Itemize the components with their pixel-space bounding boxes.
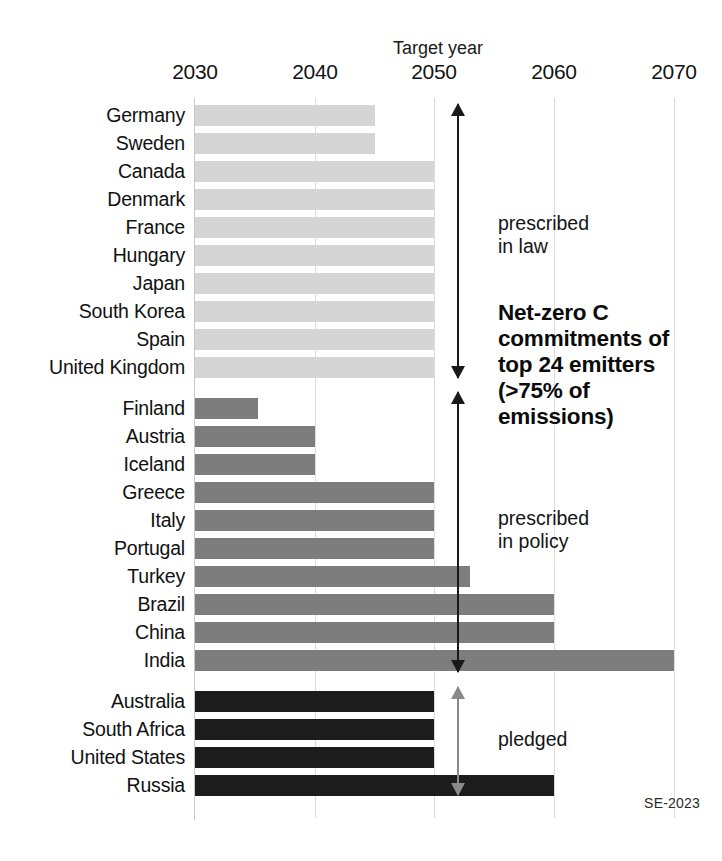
- bar-russia[interactable]: [195, 775, 554, 796]
- category-label: South Korea: [0, 300, 185, 322]
- bracket-stem: [457, 104, 459, 378]
- category-label: Greece: [0, 481, 185, 503]
- category-label: Italy: [0, 509, 185, 531]
- group-label-line2: in policy: [498, 530, 589, 553]
- category-label: Finland: [0, 397, 185, 419]
- category-label: Canada: [0, 160, 185, 182]
- bar-row[interactable]: Russia: [0, 774, 722, 802]
- bar-china[interactable]: [195, 622, 554, 643]
- bar-south-korea[interactable]: [195, 301, 434, 322]
- group-label-line1: prescribed: [498, 212, 589, 235]
- category-label: Sweden: [0, 132, 185, 154]
- bar-row[interactable]: China: [0, 621, 722, 649]
- group-label-policy: prescribedin policy: [498, 507, 589, 553]
- group-label-line1: prescribed: [498, 507, 589, 530]
- bar-turkey[interactable]: [195, 566, 470, 587]
- bracket-stem: [457, 392, 459, 672]
- category-label: Russia: [0, 774, 185, 796]
- arrow-down-icon: [451, 366, 465, 379]
- x-tick-label-2030: 2030: [155, 60, 235, 84]
- category-label: Brazil: [0, 593, 185, 615]
- bar-row[interactable]: Denmark: [0, 188, 722, 216]
- arrow-up-icon: [451, 103, 465, 116]
- category-label: Spain: [0, 328, 185, 350]
- bar-united-kingdom[interactable]: [195, 357, 434, 378]
- bar-row[interactable]: Germany: [0, 104, 722, 132]
- category-label: Hungary: [0, 244, 185, 266]
- bar-row[interactable]: United States: [0, 746, 722, 774]
- category-label: United Kingdom: [0, 356, 185, 378]
- bar-australia[interactable]: [195, 691, 434, 712]
- bar-united-states[interactable]: [195, 747, 434, 768]
- category-label: Iceland: [0, 453, 185, 475]
- bar-brazil[interactable]: [195, 594, 554, 615]
- bar-row[interactable]: Italy: [0, 509, 722, 537]
- credit-label: SE-2023: [644, 795, 700, 811]
- group-bracket-pledge: [449, 687, 467, 795]
- group-bracket-law: [449, 104, 467, 378]
- bar-germany[interactable]: [195, 105, 375, 126]
- bar-row[interactable]: Portugal: [0, 537, 722, 565]
- bar-denmark[interactable]: [195, 189, 434, 210]
- bar-row[interactable]: India: [0, 649, 722, 677]
- category-label: France: [0, 216, 185, 238]
- group-label-law: prescribedin law: [498, 212, 589, 258]
- category-label: South Africa: [0, 718, 185, 740]
- plot-area: GermanySwedenCanadaDenmarkFranceHungaryJ…: [0, 0, 722, 861]
- group-label-line2: in law: [498, 235, 589, 258]
- bar-hungary[interactable]: [195, 245, 434, 266]
- arrow-down-icon: [451, 783, 465, 796]
- bar-row[interactable]: Hungary: [0, 244, 722, 272]
- category-label: Turkey: [0, 565, 185, 587]
- group-label-line1: pledged: [498, 728, 567, 751]
- net-zero-commitments-chart: Target year GermanySwedenCanadaDenmarkFr…: [0, 0, 722, 861]
- category-label: China: [0, 621, 185, 643]
- chart-headline: Net-zero C commitments of top 24 emitter…: [498, 300, 698, 430]
- bar-austria[interactable]: [195, 426, 315, 447]
- bar-iceland[interactable]: [195, 454, 315, 475]
- bar-france[interactable]: [195, 217, 434, 238]
- x-tick-label-2040: 2040: [275, 60, 355, 84]
- bar-canada[interactable]: [195, 161, 434, 182]
- group-bracket-policy: [449, 392, 467, 672]
- bar-row[interactable]: Japan: [0, 272, 722, 300]
- bar-finland[interactable]: [195, 398, 258, 419]
- x-tick-label-2070: 2070: [634, 60, 714, 84]
- bar-row[interactable]: Sweden: [0, 132, 722, 160]
- bar-row[interactable]: France: [0, 216, 722, 244]
- bar-row[interactable]: Turkey: [0, 565, 722, 593]
- bar-portugal[interactable]: [195, 538, 434, 559]
- category-label: United States: [0, 746, 185, 768]
- bar-greece[interactable]: [195, 482, 434, 503]
- bar-row[interactable]: South Africa: [0, 718, 722, 746]
- category-label: Australia: [0, 690, 185, 712]
- arrow-down-icon: [451, 660, 465, 673]
- category-label: Portugal: [0, 537, 185, 559]
- bar-japan[interactable]: [195, 273, 434, 294]
- category-label: India: [0, 649, 185, 671]
- arrow-up-icon: [451, 391, 465, 404]
- bar-sweden[interactable]: [195, 133, 375, 154]
- bar-south-africa[interactable]: [195, 719, 434, 740]
- bar-row[interactable]: Greece: [0, 481, 722, 509]
- x-tick-label-2050: 2050: [394, 60, 474, 84]
- bar-italy[interactable]: [195, 510, 434, 531]
- category-label: Austria: [0, 425, 185, 447]
- bar-india[interactable]: [195, 650, 674, 671]
- category-label: Denmark: [0, 188, 185, 210]
- bar-row[interactable]: Iceland: [0, 453, 722, 481]
- group-label-pledge: pledged: [498, 728, 567, 751]
- bar-spain[interactable]: [195, 329, 434, 350]
- bar-row[interactable]: Canada: [0, 160, 722, 188]
- bar-row[interactable]: Australia: [0, 690, 722, 718]
- bar-row[interactable]: Brazil: [0, 593, 722, 621]
- arrow-up-icon: [451, 686, 465, 699]
- category-label: Germany: [0, 104, 185, 126]
- category-label: Japan: [0, 272, 185, 294]
- bracket-stem: [457, 687, 459, 795]
- x-tick-label-2060: 2060: [514, 60, 594, 84]
